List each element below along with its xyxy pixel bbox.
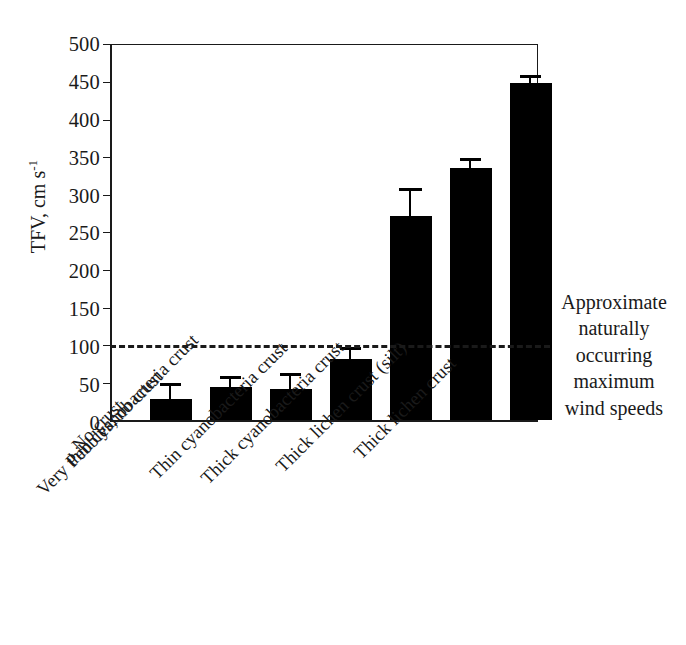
annotation-line-3: occurring <box>548 342 680 368</box>
annotation-line-2: naturally <box>548 315 680 341</box>
y-tick-label-500: 500 <box>38 34 100 55</box>
reference-line-annotation: Approximate naturally occurring maximum … <box>548 289 680 421</box>
y-axis-title-exponent: -1 <box>25 160 40 171</box>
error-bar-cap-thick-cyanobacteria-crust <box>399 188 422 191</box>
error-bar-cap-thick-lichen-crust-silt <box>460 158 481 161</box>
bar-no-crust <box>150 399 192 420</box>
error-bar-stem-thick-lichen-crust-silt <box>469 161 471 168</box>
error-bar-stem-no-crust <box>169 386 171 399</box>
y-tick-label-50: 50 <box>38 375 100 396</box>
bar-thick-lichen-crust-silt <box>450 168 492 420</box>
bar-chart-figure: 500 450 400 350 300 250 200 150 100 50 0… <box>0 0 686 645</box>
bar-thick-lichen-crust <box>510 83 552 420</box>
error-bar-cap-thick-lichen-crust <box>520 75 541 78</box>
y-tick-label-100: 100 <box>38 337 100 358</box>
annotation-line-1: Approximate <box>548 289 680 315</box>
y-axis-title: TFV, cm s-1 <box>27 107 50 307</box>
y-axis-title-text: TFV, cm s <box>27 171 49 253</box>
annotation-line-5: wind speeds <box>548 395 680 421</box>
annotation-line-4: maximum <box>548 368 680 394</box>
error-bar-stem-thick-lichen-crust <box>529 78 531 83</box>
y-tick-label-450: 450 <box>38 72 100 93</box>
error-bar-stem-thin-cyanobacteria-crust <box>349 350 351 359</box>
error-bar-stem-thick-cyanobacteria-crust <box>409 191 411 216</box>
